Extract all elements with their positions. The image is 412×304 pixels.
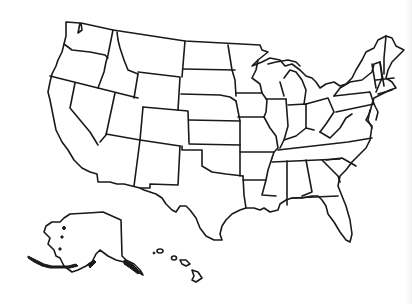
alaska-island — [63, 227, 66, 230]
niihau — [153, 252, 155, 254]
alaska-island — [59, 248, 61, 250]
border-nd-sd — [183, 69, 235, 70]
alaska-island — [61, 236, 63, 238]
maui-molokai — [180, 260, 190, 266]
alaska-inset — [28, 212, 143, 275]
page-edge-shadow — [406, 0, 412, 304]
hawaii-inset — [153, 249, 202, 282]
kauai — [157, 249, 163, 253]
border-ks-ok — [189, 144, 240, 145]
us-states-outline-map — [0, 0, 412, 304]
big-island — [192, 270, 202, 282]
oahu — [172, 256, 177, 260]
border-ne-ks — [189, 120, 240, 121]
